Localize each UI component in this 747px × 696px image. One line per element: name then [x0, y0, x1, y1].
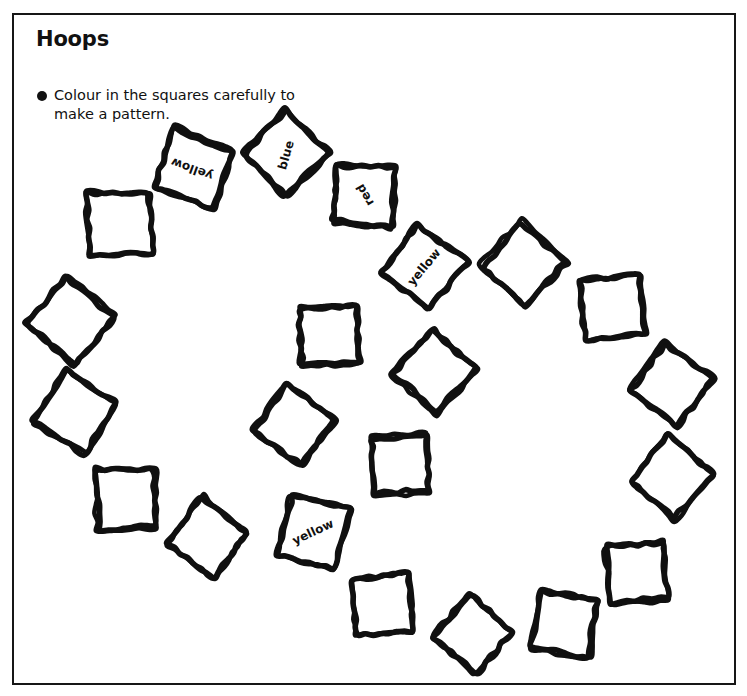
worksheet-page: Hoops Colour in the squares carefully to…	[0, 0, 747, 696]
bullet-dot-icon	[37, 91, 47, 101]
page-title: Hoops	[36, 27, 109, 51]
instruction-text: Colour in the squares carefully to make …	[54, 86, 337, 125]
instruction-row: Colour in the squares carefully to make …	[37, 86, 337, 125]
